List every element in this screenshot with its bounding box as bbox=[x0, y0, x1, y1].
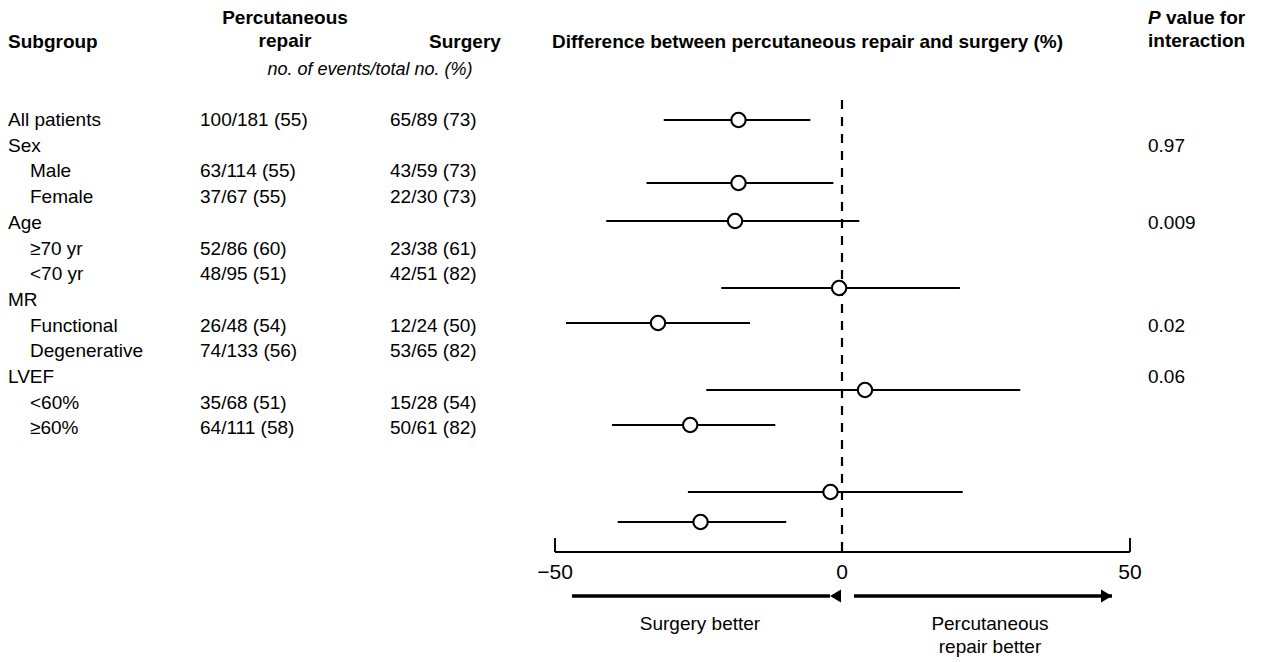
pvalue-value: 0.97 bbox=[1148, 136, 1258, 156]
surgery-value: 22/30 (73) bbox=[390, 187, 540, 207]
header-surgery: Surgery bbox=[390, 30, 540, 53]
surgery-value: 12/24 (50) bbox=[390, 316, 540, 336]
surgery-value: 23/38 (61) bbox=[390, 239, 540, 259]
percutaneous-value: 26/48 (54) bbox=[200, 316, 360, 336]
subgroup-label: ≥70 yr bbox=[8, 239, 83, 259]
forest-row bbox=[721, 281, 960, 295]
direction-label-left: Surgery better bbox=[570, 612, 830, 635]
subgroup-label: Male bbox=[8, 161, 71, 181]
subgroup-label: Female bbox=[8, 187, 93, 207]
surgery-value: 42/51 (82) bbox=[390, 264, 540, 284]
percutaneous-value: 35/68 (51) bbox=[200, 393, 360, 413]
subgroup-label: <70 yr bbox=[8, 264, 83, 284]
axis-tick-label-zero: 0 bbox=[836, 560, 848, 584]
percutaneous-value: 63/114 (55) bbox=[200, 161, 360, 181]
surgery-value: 15/28 (54) bbox=[390, 393, 540, 413]
point-estimate-marker bbox=[823, 485, 837, 499]
percutaneous-value: 100/181 (55) bbox=[200, 110, 360, 130]
axis-tick-label-min: −50 bbox=[537, 560, 573, 584]
percutaneous-value: 52/86 (60) bbox=[200, 239, 360, 259]
percutaneous-value: 64/111 (58) bbox=[200, 418, 360, 438]
forest-row bbox=[647, 176, 834, 190]
forest-row bbox=[606, 214, 859, 228]
header-units-note: no. of events/total no. (%) bbox=[200, 58, 540, 80]
surgery-value: 43/59 (73) bbox=[390, 161, 540, 181]
pvalue-value: 0.02 bbox=[1148, 316, 1258, 336]
arrow-percutaneous-better-head bbox=[1101, 590, 1112, 603]
percutaneous-value: 48/95 (51) bbox=[200, 264, 360, 284]
header-percutaneous-repair: Percutaneous repair bbox=[200, 6, 370, 52]
subgroup-label: Functional bbox=[8, 316, 118, 336]
percutaneous-value: 37/67 (55) bbox=[200, 187, 360, 207]
header-percutaneous-line2: repair bbox=[200, 29, 370, 52]
header-percutaneous-line1: Percutaneous bbox=[200, 6, 370, 29]
pvalue-value: 0.06 bbox=[1148, 367, 1258, 387]
forest-row bbox=[618, 515, 786, 529]
subgroup-label: Age bbox=[8, 213, 42, 233]
point-estimate-marker bbox=[651, 316, 665, 330]
percutaneous-value: 74/133 (56) bbox=[200, 341, 360, 361]
header-pvalue-interaction: P value for interaction bbox=[1148, 6, 1266, 52]
subgroup-label: Sex bbox=[8, 136, 41, 156]
direction-label-right-line1: Percutaneous bbox=[860, 612, 1120, 635]
forest-row bbox=[566, 316, 750, 330]
forest-row bbox=[688, 485, 963, 499]
subgroup-label: <60% bbox=[8, 393, 79, 413]
header-plot-title: Difference between percutaneous repair a… bbox=[552, 30, 1063, 53]
forest-row bbox=[706, 383, 1020, 397]
point-estimate-marker bbox=[832, 281, 846, 295]
header-pvalue-line1: P value for bbox=[1148, 6, 1266, 29]
surgery-value: 53/65 (82) bbox=[390, 341, 540, 361]
forest-plot bbox=[0, 0, 1266, 662]
forest-row bbox=[612, 418, 775, 432]
pvalue-value: 0.009 bbox=[1148, 213, 1258, 233]
point-estimate-marker bbox=[858, 383, 872, 397]
point-estimate-marker bbox=[683, 418, 697, 432]
subgroup-label: Degenerative bbox=[8, 341, 143, 361]
arrow-surgery-better bbox=[572, 590, 841, 603]
point-estimate-marker bbox=[728, 214, 742, 228]
subgroup-label: LVEF bbox=[8, 367, 54, 387]
arrow-percutaneous-better bbox=[854, 590, 1112, 603]
surgery-value: 50/61 (82) bbox=[390, 418, 540, 438]
header-pvalue-italic-p: P bbox=[1148, 7, 1161, 28]
subgroup-label: All patients bbox=[8, 110, 101, 130]
surgery-value: 65/89 (73) bbox=[390, 110, 540, 130]
header-pvalue-line2: interaction bbox=[1148, 29, 1266, 52]
direction-label-right-line2: repair better bbox=[860, 635, 1120, 658]
header-subgroup: Subgroup bbox=[8, 30, 98, 53]
point-estimate-marker bbox=[731, 176, 745, 190]
axis-tick-label-max: 50 bbox=[1118, 560, 1141, 584]
header-pvalue-rest: value for bbox=[1161, 7, 1245, 28]
point-estimate-marker bbox=[693, 515, 707, 529]
point-estimate-marker bbox=[731, 113, 745, 127]
forest-row bbox=[664, 113, 811, 127]
direction-label-right: Percutaneous repair better bbox=[860, 612, 1120, 658]
subgroup-label: MR bbox=[8, 290, 38, 310]
subgroup-label: ≥60% bbox=[8, 418, 78, 438]
arrow-surgery-better-head bbox=[830, 590, 841, 603]
x-axis bbox=[555, 538, 1130, 552]
